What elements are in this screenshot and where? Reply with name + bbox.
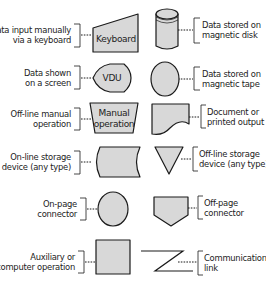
onpage-connector-shape <box>98 192 128 226</box>
offline-storage-bracket <box>193 147 198 171</box>
keyboard-description: Data input manually via a keyboard <box>0 25 71 45</box>
offpage-connector-shape <box>154 197 188 226</box>
auxiliary-operation-bracket <box>78 251 84 273</box>
communications-link-shape <box>141 251 193 271</box>
keyboard-bracket <box>74 24 80 47</box>
onpage-connector-bracket <box>80 198 86 220</box>
magnetic-tape-description: Data stored on magnetic tape <box>202 69 261 89</box>
document-bracket <box>201 105 206 128</box>
online-storage-description: On-line storage device (any type) <box>2 152 71 172</box>
offpage-connector-bracket <box>198 196 203 219</box>
magnetic-tape-bracket <box>194 67 200 90</box>
keyboard-shape-label: Keyboard <box>96 34 136 44</box>
document-description: Document or printed output <box>207 107 264 127</box>
online-storage-bracket <box>74 151 80 174</box>
vdu-description: Data shown on a screen <box>24 68 71 88</box>
offpage-connector-description: Off-page connector <box>204 198 244 218</box>
manual-operation-shape-label-1: Manual <box>99 108 130 118</box>
manual-operation-description: Off-line manual operation <box>11 109 71 129</box>
online-storage-shape <box>97 147 141 177</box>
onpage-connector-description: On-page connector <box>37 199 77 219</box>
auxiliary-operation-description: Auxiliary or computer operation <box>0 252 75 272</box>
keyboard-shape <box>93 14 138 52</box>
offline-storage-description: Off-line storage device (any type) <box>199 149 266 169</box>
vdu-bracket <box>74 66 80 89</box>
document-shape <box>152 104 189 134</box>
manual-operation-shape-label-2: operation <box>94 119 135 129</box>
vdu-shape-label: VDU <box>103 73 122 83</box>
communications-link-bracket <box>198 251 203 275</box>
magnetic-tape-shape <box>151 62 179 96</box>
manual-operation-bracket <box>74 108 80 130</box>
magnetic-disk-description: Data stored on magnetic disk <box>202 20 261 40</box>
magnetic-disk-bracket <box>194 18 200 43</box>
auxiliary-operation-shape <box>96 240 130 274</box>
offline-storage-shape <box>155 147 183 174</box>
communications-link-description: Communications link <box>204 253 266 273</box>
